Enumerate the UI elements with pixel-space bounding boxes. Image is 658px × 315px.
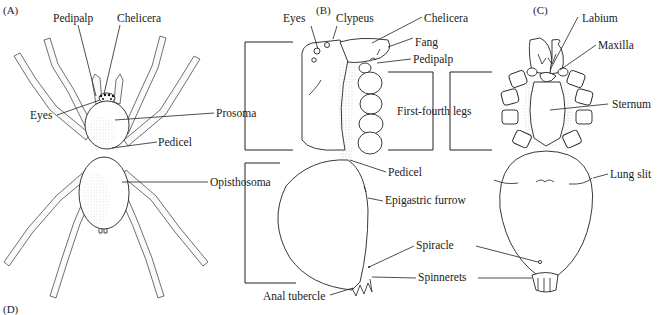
labels-panel-a: Pedipalp Chelicera Eyes Prosoma Pedicel … [30,12,271,189]
legs-right [114,36,208,298]
label-first-fourth-legs: First-fourth legs [397,105,472,118]
label-pedipalp-a: Pedipalp [53,12,93,25]
panel-c-ventral-spider [476,17,608,292]
spider-anatomy-diagram: (A) (B) (C) (D) Pedipalp Chelicera Eyes … [0,0,658,315]
abdomen-ventral [500,151,593,282]
chelicera-lateral [340,38,390,62]
sternum-shape [530,82,565,146]
panel-label-b: (B) [316,4,331,17]
pedipalp-right [114,74,123,104]
label-spiracle: Spiracle [416,239,454,252]
label-prosoma: Prosoma [216,107,256,119]
panel-a-dorsal-spider [4,25,214,298]
label-chelicera-a: Chelicera [117,12,161,24]
panel-label-d: (D) [3,303,19,315]
label-anal-tubercle: Anal tubercle [263,290,325,302]
label-pedipalp-b: Pedipalp [413,53,453,66]
label-sternum: Sternum [612,98,651,110]
label-eyes-b: Eyes [283,12,306,25]
legs-left [4,38,98,298]
prosoma-bracket [245,42,293,150]
label-epigastric-furrow: Epigastric furrow [385,194,466,207]
label-fang: Fang [415,36,438,49]
label-pedicel-b: Pedicel [388,166,422,178]
panel-b-lateral-spider [245,17,492,296]
panel-label-a: (A) [3,4,19,17]
label-opisthosoma: Opisthosoma [210,176,271,189]
label-chelicera-b: Chelicera [424,12,468,24]
label-clypeus: Clypeus [336,12,374,25]
label-lung-slit: Lung slit [610,168,652,181]
label-maxilla: Maxilla [598,39,634,51]
panel-label-c: (C) [533,4,548,17]
label-spinnerets: Spinnerets [418,271,467,284]
label-eyes-a: Eyes [30,109,53,122]
abdomen-lateral [278,160,368,290]
label-pedicel-a: Pedicel [158,136,192,148]
label-labium: Labium [582,12,618,24]
